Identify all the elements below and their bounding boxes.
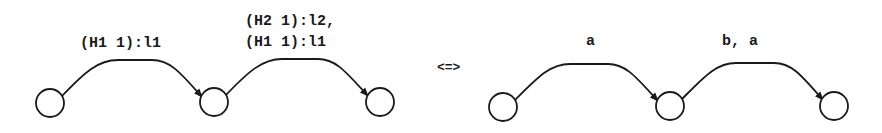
equivalence-symbol: <=> (437, 60, 461, 75)
left-node-2 (200, 88, 228, 116)
right-node-2 (656, 92, 684, 120)
left-edge-2-label-line-1: (H2 1):l2, (245, 13, 335, 30)
left-edge-2 (226, 59, 368, 96)
left-node-3 (366, 88, 394, 116)
automaton-equivalence-diagram: (H1 1):l1 (H2 1):l2, (H1 1):l1 <=> a b, … (0, 0, 882, 133)
right-edge-2-label: b, a (722, 33, 758, 50)
left-edge-2-label-line-2: (H1 1):l1 (245, 34, 326, 51)
right-edge-2 (682, 63, 823, 100)
left-edge-1-label: (H1 1):l1 (80, 35, 161, 52)
right-edge-1-label: a (586, 33, 595, 50)
left-edge-1 (62, 60, 202, 97)
left-node-1 (36, 89, 64, 117)
left-graph: (H1 1):l1 (H2 1):l2, (H1 1):l1 (36, 13, 394, 117)
right-node-3 (820, 92, 848, 120)
right-graph: a b, a (489, 33, 848, 121)
right-node-1 (489, 93, 517, 121)
right-edge-1 (515, 64, 658, 101)
